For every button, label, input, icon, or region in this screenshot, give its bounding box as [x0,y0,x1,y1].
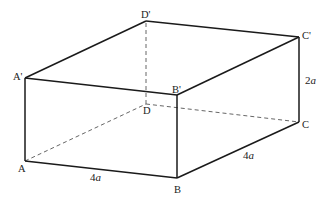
vertex-label-B: B [174,184,181,195]
vertex-label-A: A [18,163,26,174]
vertex-label-C1: C' [302,30,311,41]
edge-AB [25,161,177,178]
dimension-variable: a [311,74,317,86]
edge-C1B1 [177,37,299,95]
vertex-label-D: D [143,105,151,116]
vertex-label-C: C [302,119,309,130]
dimension-label-AB: 4a [90,171,102,183]
edge-BC [177,122,299,178]
dimension-variable: a [96,171,102,183]
hidden-edge-AD [25,104,146,161]
vertex-label-D1: D' [141,9,151,20]
vertex-label-A1: A' [13,71,23,82]
dimension-label-BC: 4a [243,149,255,161]
edge-B1A1 [25,78,177,95]
edge-A1D1 [25,21,146,78]
hidden-edge-DC [146,104,299,122]
cuboid-diagram: D' C' A' B' D C A B 4a 4a 2a [0,0,327,201]
dimension-label-CC1: 2a [305,74,317,86]
edge-D1C1 [146,21,299,37]
dimension-variable: a [249,149,255,161]
vertex-label-B1: B' [172,84,181,95]
